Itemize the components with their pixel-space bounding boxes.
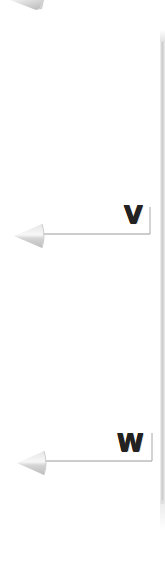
callout-graphics bbox=[0, 0, 165, 577]
callout-label-w: W bbox=[117, 431, 142, 455]
arrowhead-left-icon bbox=[14, 224, 44, 248]
arrowhead-left-icon bbox=[17, 451, 46, 475]
diagram-canvas: V W bbox=[0, 0, 165, 577]
callout-label-v: V bbox=[124, 203, 142, 227]
partial-arrowhead-top-icon bbox=[10, 0, 44, 10]
